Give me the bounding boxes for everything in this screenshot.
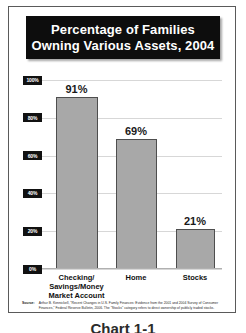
x-axis-label: Stocks	[155, 273, 235, 282]
bar	[56, 97, 98, 269]
source-text: Arthur B. Kennickell, "Recent Changes in…	[39, 301, 222, 311]
y-axis-tick-80: 80%	[23, 113, 42, 122]
source-note: Source: Arthur B. Kennickell, "Recent Ch…	[22, 301, 222, 311]
gridline	[36, 269, 222, 270]
source-label: Source:	[22, 301, 35, 306]
bar	[176, 229, 215, 269]
y-axis-tick-40: 40%	[23, 189, 42, 198]
chart-figure: Percentage of Families Owning Various As…	[0, 0, 246, 333]
bar-value-label: 91%	[46, 83, 108, 95]
figure-caption: Chart 1-1	[0, 320, 246, 333]
chart-title-line-1: Percentage of Families	[51, 22, 195, 38]
x-axis-label-line: Stocks	[155, 273, 235, 282]
axis-baseline	[36, 268, 222, 269]
y-axis-tick-60: 60%	[23, 151, 42, 160]
bar-value-label: 21%	[166, 215, 225, 227]
bar-value-label: 69%	[106, 125, 167, 137]
gridline	[36, 80, 222, 81]
chart-title-line-2: Owning Various Assets, 2004	[32, 38, 215, 54]
chart-title-plaque: Percentage of Families Owning Various As…	[26, 16, 220, 59]
x-axis-label-line: Savings/Money	[37, 282, 117, 291]
x-axis-label-line: Market Account	[37, 291, 117, 300]
y-axis-tick-100: 100%	[23, 76, 42, 85]
plot-area: 91%69%21%	[36, 80, 222, 269]
bar	[116, 139, 157, 269]
y-axis-tick-20: 20%	[23, 227, 42, 236]
